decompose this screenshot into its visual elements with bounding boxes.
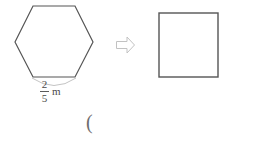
geometry-drawing [0,0,254,141]
stray-parenthesis: ( [86,112,93,132]
fraction-two-fifths: 2 5 [40,79,49,104]
hexagon-shape [15,6,93,77]
fraction-numerator: 2 [41,79,49,90]
square-shape [159,13,218,77]
side-length-label: 2 5 m [40,79,61,104]
fraction-denominator: 5 [41,92,49,104]
unit-label-meters: m [52,86,61,97]
figure-canvas: 2 5 m ( [0,0,254,141]
transform-arrow-icon [117,37,135,53]
